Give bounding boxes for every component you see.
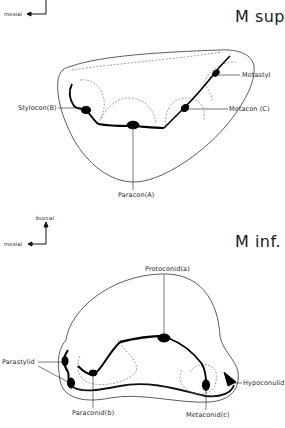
upper-orientation-arrows <box>27 0 46 16</box>
lower-dashed-contours <box>78 340 217 394</box>
lower-crown-outline <box>58 274 238 402</box>
lower-crests <box>62 334 236 391</box>
label-hypoconulid: Hypoconulid <box>243 380 284 387</box>
label-stylocon: Stylocon(B) <box>18 105 57 112</box>
upper-mesial-label: mesial <box>4 12 22 18</box>
label-metacon: Metacon (C) <box>229 106 270 113</box>
label-parastylid: Parastylid <box>2 359 35 366</box>
upper-molar-title: M sup. <box>235 9 285 25</box>
molar-diagram <box>0 0 285 428</box>
lower-leader-lines <box>38 275 242 410</box>
upper-leader-lines <box>58 75 240 190</box>
label-metaconid: Metaconid(c) <box>186 412 230 419</box>
lower-molar-title: M inf. <box>235 234 281 250</box>
label-paracon: Paracon(A) <box>118 192 154 199</box>
label-metastyl: Metastyl <box>242 72 271 79</box>
lower-orientation-arrows <box>28 122 48 246</box>
lower-mesial-label: mesial <box>4 242 22 248</box>
label-protoconid: Protoconid(a) <box>145 266 190 273</box>
lower-buccal-label: buccal <box>36 216 54 222</box>
upper-dashed-contours <box>72 52 236 126</box>
upper-crown-outline <box>58 50 255 182</box>
label-paraconid: Paraconid(b) <box>72 410 114 417</box>
